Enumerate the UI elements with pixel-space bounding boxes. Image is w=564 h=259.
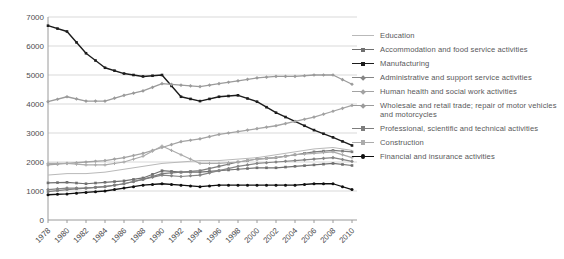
data-point-marker <box>208 98 211 101</box>
data-point-marker <box>161 182 164 185</box>
data-point-marker <box>75 97 79 101</box>
data-point-marker <box>208 167 211 170</box>
data-point-marker <box>47 24 50 27</box>
data-point-marker <box>132 154 136 158</box>
data-point-marker <box>66 192 69 195</box>
data-point-marker <box>237 94 240 97</box>
data-point-marker <box>198 85 202 89</box>
data-point-marker <box>227 95 230 98</box>
data-point-marker <box>189 138 193 142</box>
data-point-marker <box>208 83 212 87</box>
x-axis-tick-label: 1992 <box>166 226 185 245</box>
data-point-marker <box>322 73 326 77</box>
data-point-marker <box>113 188 116 191</box>
data-point-marker <box>341 158 345 162</box>
data-point-marker <box>103 99 107 103</box>
data-point-marker <box>284 184 287 187</box>
data-point-marker <box>85 187 88 190</box>
legend-series-marker-icon <box>352 152 374 162</box>
data-point-marker <box>113 96 117 100</box>
data-point-marker <box>85 191 88 194</box>
data-point-marker <box>132 91 136 95</box>
data-point-marker <box>313 164 316 167</box>
data-point-marker <box>217 82 221 86</box>
legend-series-marker-icon <box>352 87 374 97</box>
x-axis-tick-label: 2004 <box>280 226 299 245</box>
data-point-marker <box>161 169 164 172</box>
data-point-marker <box>170 174 174 178</box>
legend-series-marker-icon <box>352 59 374 69</box>
data-point-marker <box>265 184 268 187</box>
legend-item: Professional, scientific and technical a… <box>352 124 562 134</box>
x-axis-tick-label: 1980 <box>52 226 71 245</box>
data-point-marker <box>123 187 126 190</box>
data-point-marker <box>189 174 193 178</box>
series-line-4 <box>48 105 352 164</box>
data-point-marker <box>199 100 202 103</box>
data-point-marker <box>303 117 307 121</box>
data-point-marker <box>142 75 145 78</box>
data-point-marker <box>132 180 135 183</box>
legend-series-marker-icon <box>352 31 374 41</box>
data-point-marker <box>151 85 155 89</box>
chart-legend: Education Accommodation and food service… <box>352 31 562 162</box>
data-point-marker <box>132 74 135 77</box>
data-point-marker <box>132 185 135 188</box>
data-point-marker <box>75 41 78 44</box>
data-point-marker <box>227 184 230 187</box>
data-point-marker <box>313 129 316 132</box>
data-point-marker <box>189 98 192 101</box>
data-point-marker <box>180 95 183 98</box>
data-point-marker <box>180 184 183 187</box>
data-point-marker <box>142 178 145 181</box>
data-point-marker <box>322 163 325 166</box>
x-axis-tick-label: 1996 <box>204 226 223 245</box>
data-point-marker <box>322 157 326 161</box>
data-point-marker <box>256 100 259 103</box>
legend-item: Human health and social work activities <box>352 87 562 97</box>
data-point-marker <box>122 93 126 97</box>
data-point-marker <box>104 181 107 184</box>
data-point-marker <box>170 143 174 147</box>
legend-label: Construction <box>380 138 424 147</box>
data-point-marker <box>208 184 211 187</box>
x-axis-tick-label: 2000 <box>242 226 261 245</box>
data-point-marker <box>94 159 98 163</box>
data-point-marker <box>284 116 287 119</box>
legend-item: Manufacturing <box>352 59 562 69</box>
data-point-marker <box>294 184 297 187</box>
data-point-marker <box>274 160 278 164</box>
legend-series-marker-icon <box>352 138 374 148</box>
data-point-marker <box>246 128 250 132</box>
y-axis-tick-label: 3000 <box>26 129 44 138</box>
data-point-marker <box>294 165 297 168</box>
y-axis-tick-label: 2000 <box>26 158 44 167</box>
data-point-marker <box>351 164 354 167</box>
data-point-marker <box>75 188 78 191</box>
data-point-marker <box>246 78 250 82</box>
data-point-marker <box>322 132 325 135</box>
data-point-marker <box>236 79 240 83</box>
data-point-marker <box>275 167 278 170</box>
x-axis-tick-label: 1998 <box>223 226 242 245</box>
x-axis-tick-label: 1982 <box>71 226 90 245</box>
legend-label: Financial and insurance activities <box>380 152 495 161</box>
data-point-marker <box>265 75 269 79</box>
data-point-marker <box>66 30 69 33</box>
legend-item: Financial and insurance activities <box>352 152 562 162</box>
data-point-marker <box>47 193 50 196</box>
data-point-marker <box>151 183 154 186</box>
legend-label: Professional, scientific and technical a… <box>380 124 538 133</box>
data-point-marker <box>189 184 192 187</box>
data-point-marker <box>151 175 154 178</box>
data-point-marker <box>94 59 97 62</box>
data-point-marker <box>351 188 354 191</box>
legend-label: Wholesale and retail trade; repair of mo… <box>380 101 562 120</box>
x-axis-tick-label: 2010 <box>337 226 356 245</box>
x-axis-tick-label: 2008 <box>318 226 337 245</box>
data-point-marker <box>56 27 59 30</box>
data-point-marker <box>151 74 154 77</box>
data-point-marker <box>255 127 259 131</box>
y-axis-tick-label: 4000 <box>26 100 44 109</box>
data-point-marker <box>170 183 173 186</box>
